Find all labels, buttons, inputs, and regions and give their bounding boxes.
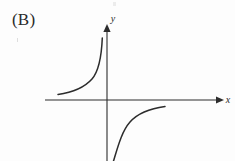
y-axis-label: y: [110, 13, 116, 24]
graph-canvas: x y: [0, 0, 235, 161]
arrow-up-icon: [103, 24, 110, 32]
x-axis-label: x: [225, 94, 231, 105]
curve-lower-right-branch: [114, 107, 166, 162]
arrow-right-icon: [216, 96, 224, 103]
curve-upper-left-branch: [58, 38, 102, 95]
figure-panel: (B) x y: [0, 0, 235, 161]
